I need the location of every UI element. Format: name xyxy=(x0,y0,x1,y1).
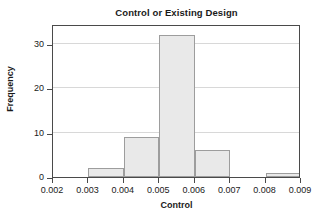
x-tick-mark-0.003 xyxy=(87,178,88,183)
histogram-bar xyxy=(266,173,299,177)
x-tick-mark-0.002 xyxy=(52,178,53,183)
x-axis-title: Control xyxy=(52,200,301,210)
chart-title: Control or Existing Design xyxy=(52,7,301,18)
x-tick-mark-0.005 xyxy=(158,178,159,183)
y-tick-label: 20 xyxy=(34,83,44,93)
y-tick-label: 0 xyxy=(39,172,44,182)
histogram-bar xyxy=(195,150,230,177)
x-tick-mark-0.008 xyxy=(265,178,266,183)
plot-area xyxy=(53,26,299,177)
histogram-figure: Control or Existing Design Frequency Con… xyxy=(0,0,327,219)
x-tick-mark-0.004 xyxy=(123,178,124,183)
histogram-bar xyxy=(88,168,123,177)
x-tick-mark-0.007 xyxy=(229,178,230,183)
histogram-bar xyxy=(159,35,194,177)
x-tick-mark-0.009 xyxy=(300,178,301,183)
y-axis-title: Frequency xyxy=(5,59,15,119)
histogram-bar xyxy=(124,137,159,177)
y-tick-label: 10 xyxy=(34,128,44,138)
plot-frame xyxy=(52,25,300,178)
y-tick-label: 30 xyxy=(34,39,44,49)
x-tick-label: 0.009 xyxy=(278,185,322,195)
x-tick-mark-0.006 xyxy=(194,178,195,183)
